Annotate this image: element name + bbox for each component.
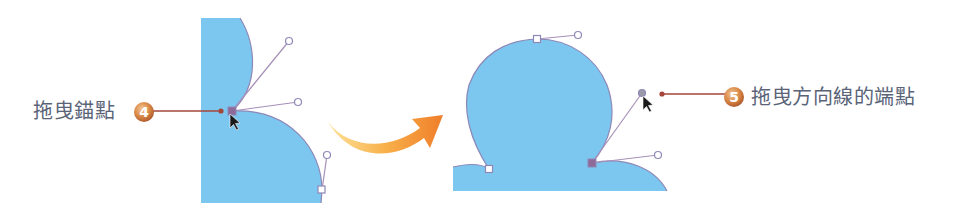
selected-anchor-point-icon[interactable] bbox=[588, 159, 596, 167]
callout-5: 5 bbox=[659, 87, 744, 107]
step-number-4: 4 bbox=[139, 104, 149, 120]
direction-line bbox=[537, 35, 578, 39]
step-number-5: 5 bbox=[729, 89, 739, 105]
curved-arrow-icon bbox=[328, 115, 443, 154]
selected-anchor-point-icon[interactable] bbox=[228, 107, 236, 115]
diagram-stage: 4 5 拖曳錨點 拖曳方向線的端點 bbox=[0, 0, 972, 214]
right-shape-group bbox=[453, 32, 667, 192]
callout-dot-icon bbox=[659, 91, 664, 96]
handle-endpoint-icon[interactable] bbox=[324, 152, 331, 159]
callout-dot-icon bbox=[218, 108, 223, 113]
dragged-handle-endpoint-icon[interactable] bbox=[639, 90, 646, 97]
handle-endpoint-icon[interactable] bbox=[575, 32, 582, 39]
anchor-point-icon[interactable] bbox=[318, 186, 325, 193]
handle-endpoint-icon[interactable] bbox=[295, 99, 302, 106]
anchor-point-icon[interactable] bbox=[534, 36, 541, 43]
anchor-point-icon[interactable] bbox=[486, 166, 493, 173]
mouse-cursor-icon bbox=[643, 96, 653, 112]
callout-label-drag-anchor: 拖曳錨點 bbox=[33, 100, 115, 122]
handle-endpoint-icon[interactable] bbox=[286, 38, 293, 45]
direction-line bbox=[322, 155, 327, 190]
direction-line bbox=[232, 102, 298, 111]
handle-endpoint-icon[interactable] bbox=[655, 152, 662, 159]
callout-label-drag-direction-endpoint: 拖曳方向線的端點 bbox=[751, 86, 915, 108]
